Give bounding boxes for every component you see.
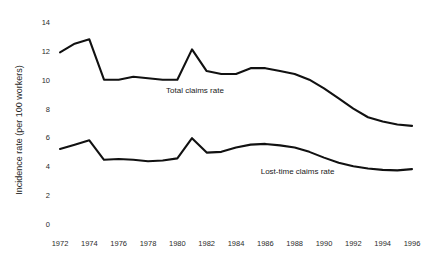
incidence-rate-line-chart: 02468101214 1972197419761978198019821984… xyxy=(0,0,444,262)
x-tick-label-1986: 1986 xyxy=(257,239,274,248)
y-tick-label-6: 6 xyxy=(46,133,50,142)
series-label-total-claims-rate: Total claims rate xyxy=(166,86,224,95)
y-tick-label-8: 8 xyxy=(46,105,50,114)
series-lines-group xyxy=(60,39,412,170)
x-tick-label-1994: 1994 xyxy=(374,239,391,248)
series-inline-labels: Total claims rateLost-time claims rate xyxy=(166,86,335,177)
y-axis-tick-labels: 02468101214 xyxy=(42,18,50,229)
x-tick-label-1990: 1990 xyxy=(316,239,333,248)
x-tick-label-1972: 1972 xyxy=(52,239,69,248)
x-tick-label-1976: 1976 xyxy=(110,239,127,248)
x-tick-label-1982: 1982 xyxy=(198,239,215,248)
series-line-total-claims-rate xyxy=(60,39,412,126)
x-tick-label-1984: 1984 xyxy=(228,239,245,248)
series-label-lost-time-claims-rate: Lost-time claims rate xyxy=(261,167,335,176)
x-tick-label-1974: 1974 xyxy=(81,239,98,248)
y-tick-label-2: 2 xyxy=(46,191,50,200)
y-tick-label-14: 14 xyxy=(42,18,50,27)
x-tick-label-1996: 1996 xyxy=(404,239,421,248)
y-tick-label-10: 10 xyxy=(42,76,50,85)
y-tick-label-0: 0 xyxy=(46,220,50,229)
x-tick-label-1992: 1992 xyxy=(345,239,362,248)
y-tick-label-4: 4 xyxy=(46,162,50,171)
chart-plot-area: 02468101214 1972197419761978198019821984… xyxy=(0,0,444,262)
y-tick-label-12: 12 xyxy=(42,47,50,56)
series-line-lost-time-claims-rate xyxy=(60,138,412,170)
x-tick-label-1978: 1978 xyxy=(140,239,157,248)
x-tick-label-1980: 1980 xyxy=(169,239,186,248)
x-tick-label-1988: 1988 xyxy=(286,239,303,248)
x-axis-tick-labels: 1972197419761978198019821984198619881990… xyxy=(52,239,421,248)
y-axis-title: Incidence rate (per 100 workers) xyxy=(14,65,24,195)
